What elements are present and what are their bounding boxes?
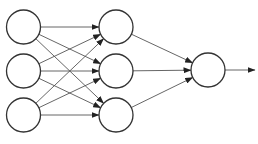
input-node-i3 [7,98,41,132]
hidden-node-h2 [99,54,133,88]
neurons [7,10,226,132]
hidden-node-h3 [99,98,133,132]
edge-arrow-h2-o1 [133,70,191,71]
diagram-canvas [0,0,258,144]
hidden-node-h1 [99,10,133,44]
input-node-i2 [7,54,41,88]
neural-network-diagram [0,0,258,144]
input-node-i1 [7,10,41,44]
edge-arrow-h3-o1 [131,77,192,107]
edge-arrow-h1-o1 [131,34,192,63]
output-node-o1 [191,53,225,87]
